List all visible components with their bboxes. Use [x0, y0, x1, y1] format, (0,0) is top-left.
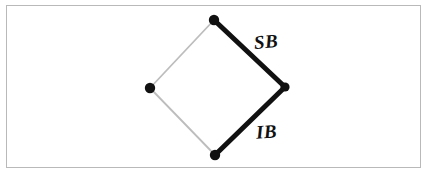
edge-label-top-right: SB	[253, 30, 279, 54]
vertex-right-dot	[280, 82, 289, 91]
vertex-left-dot	[145, 83, 155, 93]
vertex-top-dot	[209, 15, 219, 25]
edge-left-top	[150, 20, 214, 88]
edge-bottom-left	[150, 88, 215, 155]
figure-root: SB IB	[0, 0, 428, 175]
diamond-diagram	[0, 0, 428, 175]
edge-label-bottom-right: IB	[255, 120, 278, 143]
vertex-bottom-dot	[210, 150, 220, 160]
